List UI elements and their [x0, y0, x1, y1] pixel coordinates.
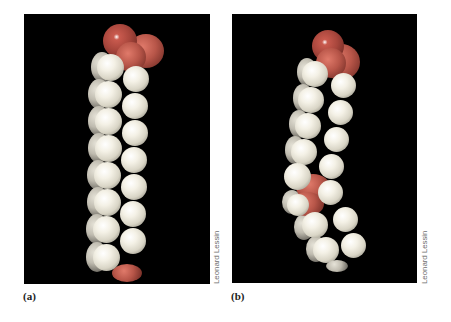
hydrogen-atom	[284, 163, 311, 190]
terminal-carbon-atom	[112, 264, 142, 282]
hydrogen-atom	[318, 180, 343, 205]
photo-credit-b: Leonard Lessin	[420, 231, 429, 284]
panel-label-a: (a)	[23, 290, 36, 302]
hydrogen-atom	[123, 66, 149, 92]
hydrogen-atom	[331, 73, 356, 98]
hydrogen-atom	[319, 154, 344, 179]
hydrogen-atom	[121, 174, 147, 200]
hydrogen-atom	[298, 87, 324, 113]
hydrogen-atom	[93, 216, 120, 243]
hydrogen-atom	[93, 244, 120, 271]
hydrogen-atom	[120, 201, 146, 227]
panel-label-b: (b)	[231, 290, 244, 302]
hydrogen-atom	[122, 93, 148, 119]
hydrogen-atom	[324, 127, 349, 152]
hydrogen-atom	[95, 108, 122, 135]
hydrogen-atom	[122, 120, 148, 146]
photo-credit-a: Leonard Lessin	[212, 231, 221, 284]
hydrogen-atom	[97, 54, 124, 81]
hydrogen-atom	[95, 81, 122, 108]
hydrogen-atom	[341, 233, 366, 258]
hydrogen-atom	[291, 139, 317, 165]
hydrogen-atom	[121, 147, 147, 173]
terminal-hydrogen-atom	[326, 260, 348, 272]
hydrogen-atom	[94, 189, 121, 216]
hydrogen-atom	[302, 61, 328, 87]
hydrogen-atom	[328, 100, 353, 125]
hydrogen-atom	[295, 113, 321, 139]
photo-panel-a	[24, 14, 210, 284]
hydrogen-atom	[94, 162, 121, 189]
hydrogen-atom	[333, 207, 358, 232]
hydrogen-atom	[120, 228, 146, 254]
hydrogen-atom	[302, 212, 328, 238]
photo-panel-b	[232, 14, 417, 283]
hydrogen-atom	[95, 135, 122, 162]
hydrogen-atom	[287, 194, 309, 216]
